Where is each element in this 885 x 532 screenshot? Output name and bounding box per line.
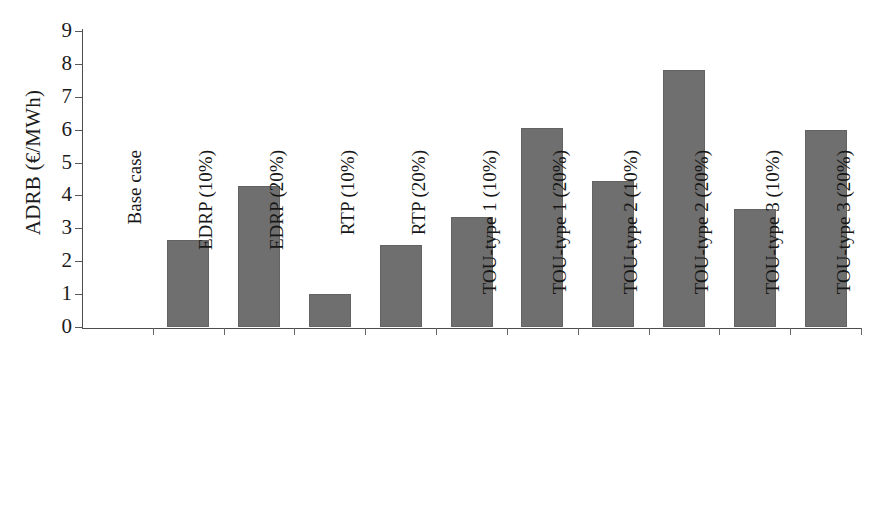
y-axis-tick-label: 1 bbox=[44, 283, 72, 304]
y-axis-tick bbox=[75, 195, 82, 196]
x-axis-category-label: TOU-type 1 (20%) bbox=[550, 150, 569, 340]
x-axis-tick bbox=[436, 328, 437, 335]
x-axis-tick bbox=[294, 328, 295, 335]
y-axis-tick bbox=[75, 327, 82, 328]
x-axis-category-label: TOU-type 3 (20%) bbox=[834, 150, 853, 340]
x-axis-tick bbox=[153, 328, 154, 335]
x-axis-category-label: Base case bbox=[125, 150, 144, 340]
bar-chart-figure: ADRB (€/MWh) 0123456789 Base caseEDRP (1… bbox=[0, 0, 885, 532]
x-axis-category-label: EDRP (20%) bbox=[267, 150, 286, 340]
y-axis-tick-label: 6 bbox=[44, 119, 72, 140]
x-axis-category-label: EDRP (10%) bbox=[196, 150, 215, 340]
y-axis-tick bbox=[75, 294, 82, 295]
y-axis-tick bbox=[75, 64, 82, 65]
y-axis-tick-label: 9 bbox=[44, 20, 72, 41]
x-axis-category-label: TOU-type 2 (10%) bbox=[621, 150, 640, 340]
x-axis-tick bbox=[365, 328, 366, 335]
y-axis-tick-label: 8 bbox=[44, 53, 72, 74]
y-axis-tick-label: 0 bbox=[44, 316, 72, 337]
x-axis-category-label: TOU-type 2 (20%) bbox=[692, 150, 711, 340]
y-axis-tick-label: 4 bbox=[44, 184, 72, 205]
x-axis-category-label: RTP (20%) bbox=[409, 150, 428, 340]
x-axis-tick bbox=[507, 328, 508, 335]
x-axis-tick bbox=[790, 328, 791, 335]
y-axis-tick-label: 7 bbox=[44, 86, 72, 107]
x-axis-category-label: RTP (10%) bbox=[338, 150, 357, 340]
y-axis-tick bbox=[75, 130, 82, 131]
y-axis-tick-label: 3 bbox=[44, 217, 72, 238]
x-axis-category-label: TOU-type 1 (10%) bbox=[480, 150, 499, 340]
y-axis-tick bbox=[75, 228, 82, 229]
y-axis-tick bbox=[75, 163, 82, 164]
x-axis-tick bbox=[861, 328, 862, 335]
y-axis-title: ADRB (€/MWh) bbox=[21, 13, 46, 313]
x-axis-tick bbox=[719, 328, 720, 335]
y-axis-tick bbox=[75, 97, 82, 98]
y-axis-tick bbox=[75, 261, 82, 262]
x-axis-tick bbox=[578, 328, 579, 335]
y-axis-tick bbox=[75, 31, 82, 32]
x-axis-tick bbox=[224, 328, 225, 335]
y-axis-tick-label: 5 bbox=[44, 152, 72, 173]
x-axis-category-label: TOU-type 3 (10%) bbox=[763, 150, 782, 340]
x-axis-tick bbox=[649, 328, 650, 335]
y-axis-tick-label: 2 bbox=[44, 250, 72, 271]
